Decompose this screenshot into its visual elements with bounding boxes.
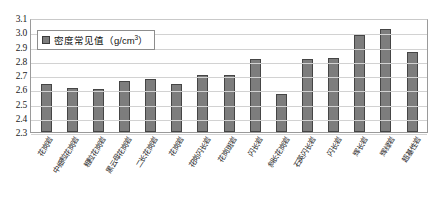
x-axis-tick-label: 花岗斑岩 [215,135,239,164]
bar [67,88,78,132]
bar-slot [242,20,268,132]
bar [250,59,261,132]
y-axis-tick-label: 2.6 [16,85,27,95]
x-axis-tick-label: 二长花岗岩 [132,135,159,169]
bar-chart: 3.13.02.92.82.72.62.52.42.3 密度常见值（g/cm3）… [0,0,434,204]
x-axis-tick-label: 石英闪长岩 [290,135,317,169]
chart-legend: 密度常见值（g/cm3） [37,30,155,50]
x-label-slot: 闪长岩 [321,134,347,204]
x-axis-tick-label: 超基性岩 [399,135,423,164]
legend-label-prefix: 密度常见值（g/cm [54,35,135,46]
x-label-slot: 花岗闪长岩 [190,134,216,204]
gridline [31,77,427,78]
bar-slot [399,20,425,132]
x-label-slot: 花岗岩 [163,134,189,204]
x-label-slot: 辉长岩 [347,134,373,204]
bar-slot [216,20,242,132]
x-label-slot: 辉绿岩 [373,134,399,204]
x-axis-tick-label: 花岗岩 [34,135,54,158]
gridline [31,106,427,107]
bar [302,59,313,132]
y-axis-tick-label: 2.8 [16,57,27,67]
x-label-slot: 黑云母花岗岩 [111,134,137,204]
y-axis-tick-label: 2.9 [16,43,27,53]
y-axis-tick-label: 2.3 [16,128,27,138]
x-axis-tick-label: 闪长岩 [245,135,265,158]
x-label-slot: 花岗斑岩 [216,134,242,204]
legend-label-suffix: ） [138,35,148,46]
bar [328,58,339,132]
bar-slot [321,20,347,132]
gridline [31,91,427,92]
bar-slot [294,20,320,132]
bar-slot [268,20,294,132]
bar-slot [347,20,373,132]
x-axis-tick-label: 花岗岩 [166,135,186,158]
x-axis-tick-label: 辉绿岩 [376,135,396,158]
x-axis-tick-label: 花岗闪长岩 [185,135,212,169]
y-axis-tick-label: 2.4 [16,114,27,124]
bar [93,89,104,132]
x-axis-tick-label: 粗粒花岗岩 [80,135,107,169]
gridline [31,120,427,121]
x-axis-tick-label: 闪长岩 [323,135,343,158]
x-axis-labels: 花岗岩中细粒花岗岩粗粒花岗岩黑云母花岗岩二长花岗岩花岗岩花岗闪长岩花岗斑岩闪长岩… [30,134,428,204]
x-label-slot: 二长花岗岩 [137,134,163,204]
x-label-slot: 闪长岩 [242,134,268,204]
y-axis-tick-label: 2.5 [16,100,27,110]
y-axis-tick-label: 3.1 [16,14,27,24]
bar [354,35,365,132]
y-axis-tick-label: 2.7 [16,71,27,81]
x-axis-tick-label: 辉长岩 [350,135,370,158]
x-axis-tick-label: 斜长花岗岩 [264,135,291,169]
legend-label: 密度常见值（g/cm3） [54,33,148,47]
x-label-slot: 中细粒花岗岩 [58,134,84,204]
gridline [31,63,427,64]
bar [276,94,287,132]
x-label-slot: 超基性岩 [400,134,426,204]
bar [224,75,235,132]
bar-slot [164,20,190,132]
y-axis: 3.13.02.92.82.72.62.52.42.3 [0,19,30,133]
bar-slot [373,20,399,132]
legend-swatch-icon [42,36,50,44]
y-axis-tick-label: 3.0 [16,28,27,38]
x-label-slot: 石英闪长岩 [295,134,321,204]
bar [380,29,391,132]
x-label-slot: 斜长花岗岩 [268,134,294,204]
bar [197,75,208,132]
bar-slot [190,20,216,132]
